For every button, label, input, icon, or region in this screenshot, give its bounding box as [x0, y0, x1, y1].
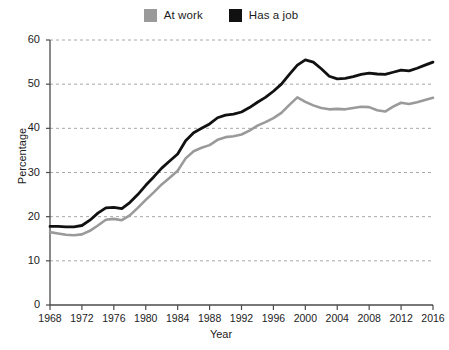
y-axis-title: Percentage	[16, 96, 28, 216]
series-line-has-a-job	[50, 60, 433, 227]
y-tick-label-0: 0	[10, 299, 40, 310]
x-axis-title: Year	[0, 328, 442, 340]
x-tick-label-1976: 1976	[96, 313, 132, 324]
y-tick-label-10: 10	[10, 255, 40, 266]
x-tick-label-1992: 1992	[224, 313, 260, 324]
y-tick-label-50: 50	[10, 78, 40, 89]
x-tick-label-2012: 2012	[383, 313, 419, 324]
x-tick-label-2004: 2004	[319, 313, 355, 324]
x-tick-label-1972: 1972	[64, 313, 100, 324]
x-tick-label-1968: 1968	[32, 313, 68, 324]
x-tick-label-1980: 1980	[128, 313, 164, 324]
x-tick-label-2008: 2008	[351, 313, 387, 324]
x-tick-label-2000: 2000	[287, 313, 323, 324]
x-tick-label-1996: 1996	[255, 313, 291, 324]
series-line-at-work	[50, 97, 433, 235]
x-tick-label-1984: 1984	[160, 313, 196, 324]
x-tick-label-1988: 1988	[192, 313, 228, 324]
y-tick-label-60: 60	[10, 34, 40, 45]
x-tick-label-2016: 2016	[415, 313, 449, 324]
